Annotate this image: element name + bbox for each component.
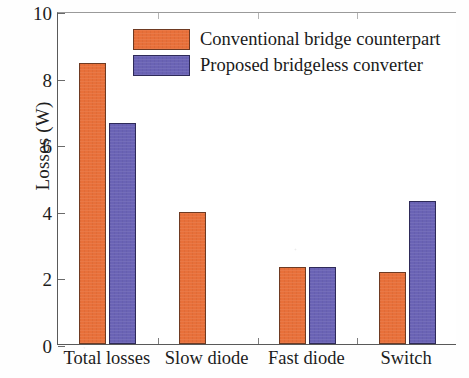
legend-item: Proposed bridgeless converter xyxy=(133,52,440,78)
y-axis-tick-label: 0 xyxy=(43,336,53,358)
y-axis-tick: 8 xyxy=(58,80,65,81)
x-axis-label-fast-diode: Fast diode xyxy=(257,348,357,369)
top-frame-tick xyxy=(357,13,358,19)
bar-conventional xyxy=(179,212,206,344)
y-axis-tick-label: 10 xyxy=(33,3,52,25)
legend-color-swatch xyxy=(133,29,190,50)
y-axis-tick: 10 xyxy=(58,13,65,14)
x-axis-label-total-losses: Total losses xyxy=(57,348,157,369)
top-frame-tick xyxy=(158,13,159,19)
legend-label: Conventional bridge counterpart xyxy=(200,29,440,50)
x-axis-tick xyxy=(357,338,358,344)
y-axis-tick: 0 xyxy=(58,346,65,347)
x-axis-label-switch: Switch xyxy=(356,348,456,369)
y-axis-tick-label: 8 xyxy=(43,70,53,92)
x-axis-label-slow-diode: Slow diode xyxy=(157,348,257,369)
y-axis-tick-label: 6 xyxy=(43,136,53,158)
chart-legend: Conventional bridge counterpartProposed … xyxy=(133,26,440,78)
bar-proposed xyxy=(109,123,136,344)
y-axis-tick: 4 xyxy=(58,213,65,214)
bar-proposed xyxy=(409,201,436,344)
bar-conventional xyxy=(79,63,106,344)
y-axis-tick: 6 xyxy=(58,146,65,147)
bar-conventional xyxy=(279,267,306,344)
legend-label: Proposed bridgeless converter xyxy=(200,55,423,76)
bar-proposed xyxy=(309,267,336,344)
y-axis-tick: 2 xyxy=(58,279,65,280)
y-axis-tick-label: 2 xyxy=(43,269,53,291)
legend-color-swatch xyxy=(133,55,190,76)
y-axis-tick-label: 4 xyxy=(43,203,53,225)
bar-conventional xyxy=(379,272,406,344)
top-frame-tick xyxy=(258,13,259,19)
legend-item: Conventional bridge counterpart xyxy=(133,26,440,52)
x-axis-tick xyxy=(158,338,159,344)
x-axis-tick xyxy=(258,338,259,344)
bar-chart-figure: Losses (W) 0246810 Total lossesSlow diod… xyxy=(0,0,469,378)
